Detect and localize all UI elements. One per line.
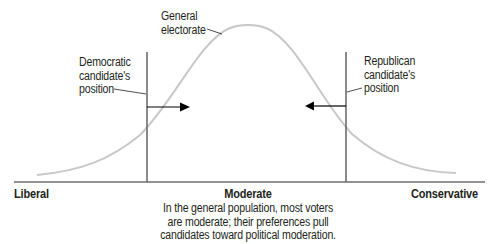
electorate-label-line: General bbox=[161, 10, 206, 24]
median-voter-diagram: General electorate Democratic candidate'… bbox=[0, 0, 497, 244]
democratic-label-line: position bbox=[79, 83, 131, 97]
republican-leader-line bbox=[347, 88, 362, 92]
electorate-distribution-curve bbox=[37, 25, 456, 175]
caption-line: are moderate; their preferences pull bbox=[142, 216, 353, 230]
axis-label-conservative: Conservative bbox=[390, 188, 478, 202]
democratic-label-line: Democratic bbox=[79, 56, 131, 70]
caption-line: In the general population, most voters bbox=[142, 202, 353, 216]
electorate-leader-line bbox=[207, 29, 222, 34]
democratic-label-line: candidate's bbox=[79, 70, 131, 84]
diagram-caption: In the general population, most voters a… bbox=[142, 202, 353, 243]
axis-label-moderate: Moderate bbox=[160, 188, 336, 202]
axis-label-liberal: Liberal bbox=[14, 188, 49, 202]
arrow-left-icon bbox=[305, 102, 346, 111]
democratic-label: Democratic candidate's position bbox=[79, 56, 131, 97]
caption-line: candidates toward political moderation. bbox=[142, 229, 353, 243]
republican-label-line: Republican bbox=[364, 55, 415, 69]
republican-label: Republican candidate's position bbox=[364, 55, 415, 96]
republican-label-line: candidate's bbox=[364, 69, 415, 83]
arrow-right-icon bbox=[147, 103, 190, 112]
electorate-label: General electorate bbox=[161, 10, 206, 37]
electorate-label-line: electorate bbox=[161, 24, 206, 38]
republican-label-line: position bbox=[364, 82, 415, 96]
